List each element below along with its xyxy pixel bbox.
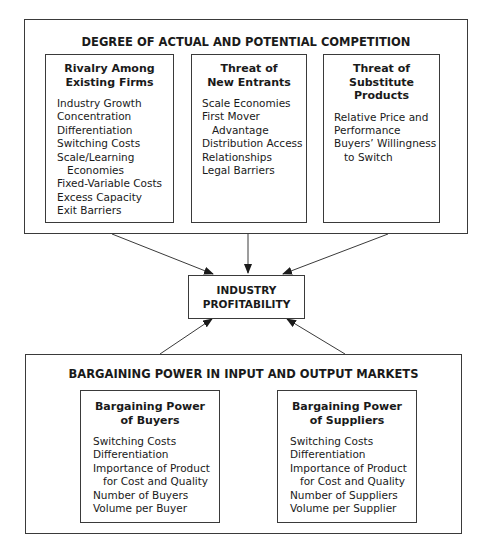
factor-item: Switching Costs bbox=[93, 435, 219, 448]
factor-item: Differentiation bbox=[290, 448, 416, 461]
factor-item: Scale Economies bbox=[202, 97, 306, 110]
new-entrants-title: Threat of New Entrants bbox=[192, 62, 306, 89]
factor-item: First Mover bbox=[202, 110, 306, 123]
arrow-substitutes-to-profitability bbox=[283, 234, 388, 274]
factor-item: Differentiation bbox=[57, 124, 173, 137]
factor-item: Importance of Product bbox=[290, 462, 416, 475]
arrow-suppliers-to-profitability bbox=[287, 319, 345, 354]
rivalry-title: Rivalry Among Existing Firms bbox=[46, 62, 173, 89]
factor-item: Volume per Buyer bbox=[93, 502, 219, 515]
factor-item: Excess Capacity bbox=[57, 191, 173, 204]
factor-item: Industry Growth bbox=[57, 97, 173, 110]
factor-item: Buyers’ Willingness bbox=[334, 137, 439, 150]
factor-item: Fixed-Variable Costs bbox=[57, 177, 173, 190]
factor-item-continuation: Economies bbox=[57, 164, 173, 177]
buyers-factors: Switching Costs Differentiation Importan… bbox=[81, 435, 219, 515]
factor-item: Differentiation bbox=[93, 448, 219, 461]
factor-item-continuation: for Cost and Quality bbox=[93, 475, 219, 488]
rivalry-factors: Industry Growth Concentration Differenti… bbox=[46, 97, 173, 218]
factor-item: Concentration bbox=[57, 110, 173, 123]
competition-title: DEGREE OF ACTUAL AND POTENTIAL COMPETITI… bbox=[25, 35, 467, 49]
factor-item: Volume per Supplier bbox=[290, 502, 416, 515]
bargaining-title: BARGAINING POWER IN INPUT AND OUTPUT MAR… bbox=[26, 367, 461, 381]
substitutes-factors: Relative Price and Performance Buyers’ W… bbox=[324, 111, 439, 165]
factor-item: Number of Buyers bbox=[93, 489, 219, 502]
substitutes-box: Threat of Substitute Products Relative P… bbox=[323, 54, 440, 223]
factor-item: Switching Costs bbox=[290, 435, 416, 448]
new-entrants-factors: Scale Economies First Mover Advantage Di… bbox=[192, 97, 306, 177]
factor-item: Relationships bbox=[202, 151, 306, 164]
rivalry-box: Rivalry Among Existing Firms Industry Gr… bbox=[45, 54, 174, 223]
factor-item: Switching Costs bbox=[57, 137, 173, 150]
factor-item: Number of Suppliers bbox=[290, 489, 416, 502]
factor-item: Relative Price and bbox=[334, 111, 439, 124]
buyers-box: Bargaining Power of Buyers Switching Cos… bbox=[80, 390, 220, 523]
suppliers-title: Bargaining Power of Suppliers bbox=[278, 400, 416, 427]
factor-item: Performance bbox=[334, 124, 439, 137]
factor-item: Scale/Learning bbox=[57, 151, 173, 164]
buyers-title: Bargaining Power of Buyers bbox=[81, 400, 219, 427]
suppliers-box: Bargaining Power of Suppliers Switching … bbox=[277, 390, 417, 523]
factor-item: Legal Barriers bbox=[202, 164, 306, 177]
substitutes-title: Threat of Substitute Products bbox=[324, 62, 439, 103]
suppliers-factors: Switching Costs Differentiation Importan… bbox=[278, 435, 416, 515]
arrow-buyers-to-profitability bbox=[160, 319, 212, 354]
arrow-rivalry-to-profitability bbox=[112, 234, 213, 274]
factor-item: Distribution Access bbox=[202, 137, 306, 150]
industry-profitability-label: INDUSTRY PROFITABILITY bbox=[189, 276, 304, 311]
factor-item-continuation: to Switch bbox=[334, 151, 439, 164]
new-entrants-box: Threat of New Entrants Scale Economies F… bbox=[191, 54, 307, 223]
factor-item-continuation: for Cost and Quality bbox=[290, 475, 416, 488]
factor-item: Exit Barriers bbox=[57, 204, 173, 217]
factor-item-continuation: Advantage bbox=[202, 124, 306, 137]
factor-item: Importance of Product bbox=[93, 462, 219, 475]
industry-profitability-box: INDUSTRY PROFITABILITY bbox=[188, 275, 305, 319]
